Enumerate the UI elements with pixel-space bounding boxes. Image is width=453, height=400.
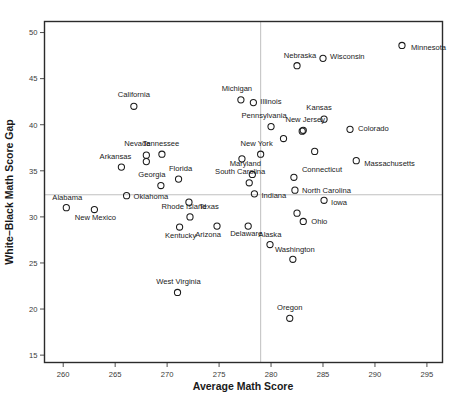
y-tick-label: 15 bbox=[29, 351, 37, 360]
data-point-label: New Mexico bbox=[75, 213, 116, 222]
scatter-chart-container: 2602652702752802852902951520253035404550… bbox=[0, 0, 453, 400]
data-point-label: Michigan bbox=[222, 84, 252, 93]
data-point-label: Kansas bbox=[306, 103, 332, 112]
data-point-label: Oklahoma bbox=[134, 192, 169, 201]
data-point-label: Iowa bbox=[331, 198, 348, 207]
x-tick-label: 270 bbox=[161, 370, 174, 379]
data-point-label: Georgia bbox=[138, 170, 166, 179]
x-tick-label: 260 bbox=[57, 370, 70, 379]
data-point-label: Connecticut bbox=[302, 165, 343, 174]
data-point-label: Illinois bbox=[260, 97, 281, 106]
data-point-label: Wisconsin bbox=[330, 52, 365, 61]
y-tick-label: 25 bbox=[29, 259, 37, 268]
data-point-label: South Carolina bbox=[215, 167, 266, 176]
x-tick-label: 280 bbox=[265, 370, 278, 379]
x-tick-label: 275 bbox=[213, 370, 226, 379]
data-point-label: Nebraska bbox=[284, 51, 317, 60]
y-tick-label: 35 bbox=[29, 167, 37, 176]
y-tick-label: 30 bbox=[29, 213, 37, 222]
data-point-label: North Carolina bbox=[302, 186, 352, 195]
data-point-label: Ohio bbox=[311, 217, 327, 226]
y-tick-label: 40 bbox=[29, 121, 37, 130]
data-point-label: Colorado bbox=[358, 124, 389, 133]
data-point-label: Alabama bbox=[52, 193, 83, 202]
data-point-label: Florida bbox=[169, 164, 193, 173]
y-axis-title: White–Black Math Score Gap bbox=[3, 119, 15, 264]
y-tick-label: 20 bbox=[29, 305, 37, 314]
data-point-label: Arkansas bbox=[100, 152, 132, 161]
data-point-label: West Virginia bbox=[156, 277, 201, 286]
data-point-label: Rhode Island bbox=[162, 202, 207, 211]
data-point-label: Washington bbox=[275, 245, 315, 254]
x-tick-label: 265 bbox=[109, 370, 122, 379]
x-tick-label: 285 bbox=[317, 370, 330, 379]
data-point-label: Indiana bbox=[261, 191, 287, 200]
data-point-label: Kentucky bbox=[165, 231, 196, 240]
x-axis-title: Average Math Score bbox=[193, 380, 294, 392]
data-point-label: New York bbox=[241, 139, 273, 148]
data-point-label: Delaware bbox=[230, 229, 262, 238]
data-point-label: Arizona bbox=[195, 230, 222, 239]
data-point-label: Minnesota bbox=[411, 43, 447, 52]
data-point-label: California bbox=[118, 90, 151, 99]
data-point-label: Massachusetts bbox=[364, 159, 415, 168]
x-tick-label: 295 bbox=[421, 370, 434, 379]
data-point-label: New Jersey bbox=[285, 115, 325, 124]
scatter-plot-svg: 2602652702752802852902951520253035404550… bbox=[0, 0, 453, 400]
x-tick-label: 290 bbox=[369, 370, 382, 379]
data-point-label: Oregon bbox=[277, 303, 302, 312]
data-point-label: Nevada bbox=[124, 139, 151, 148]
data-point-label: Pennsylvania bbox=[241, 111, 287, 120]
y-tick-label: 50 bbox=[29, 28, 37, 37]
y-tick-label: 45 bbox=[29, 74, 37, 83]
data-point-label: Alaska bbox=[259, 230, 283, 239]
